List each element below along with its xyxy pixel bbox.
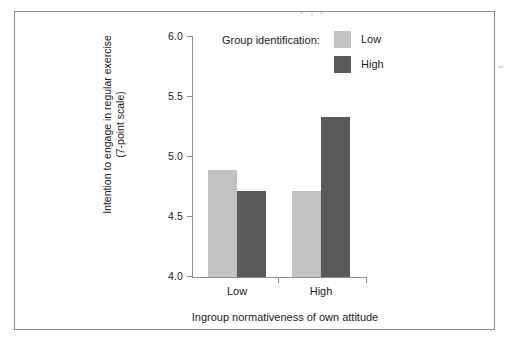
bar-high-normativeness-low-identification[interactable] xyxy=(292,191,321,277)
bar-high-normativeness-high-identification[interactable] xyxy=(321,117,350,277)
y-axis-title: Intention to engage in regular exercise … xyxy=(101,10,126,240)
scan-speck xyxy=(498,66,504,68)
x-axis-line xyxy=(192,277,367,278)
x-tick-mark-end xyxy=(366,278,367,283)
scan-speck xyxy=(311,13,313,16)
legend-label-high: High xyxy=(361,56,384,73)
y-axis-title-line1: Intention to engage in regular exercise xyxy=(101,10,114,240)
scan-speck xyxy=(320,12,323,14)
legend-label-low: Low xyxy=(361,31,381,48)
y-axis-title-line2: (7-point scale) xyxy=(113,10,126,240)
bar-low-normativeness-low-identification[interactable] xyxy=(208,170,237,277)
legend-swatch-high-icon xyxy=(334,56,351,73)
legend-title: Group identification: xyxy=(222,34,320,46)
legend: Group identification: Low High xyxy=(222,28,432,80)
scan-speck xyxy=(300,12,303,14)
legend-swatch-low-icon xyxy=(334,31,351,48)
bar-low-normativeness-high-identification[interactable] xyxy=(237,191,266,277)
x-tick-mark-group-separator xyxy=(278,278,279,283)
x-axis-title: Ingroup normativeness of own attitude xyxy=(150,311,420,323)
x-category-label-high: High xyxy=(286,285,356,297)
chart-plot-area: 6.0 5.5 5.0 4.5 4.0 Low High Ingroup nor… xyxy=(0,0,507,342)
x-category-label-low: Low xyxy=(202,285,272,297)
